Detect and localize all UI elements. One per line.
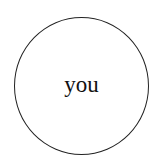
node-label: you <box>15 18 148 154</box>
circle-node-you: you <box>14 17 149 155</box>
